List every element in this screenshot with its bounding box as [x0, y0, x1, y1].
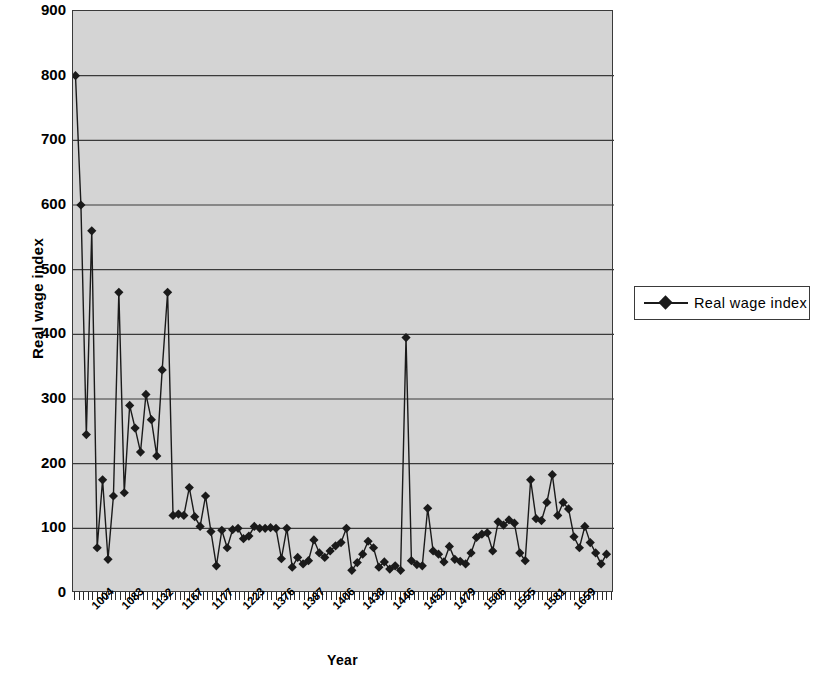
series-line-real-wage-index [76, 76, 607, 571]
x-axis-minor-tick [79, 592, 80, 600]
y-axis-tick-label: 900 [6, 2, 66, 17]
data-point-marker [73, 71, 80, 80]
x-axis-minor-tick [83, 592, 84, 600]
x-axis-minor-tick [570, 592, 571, 600]
data-point-marker [185, 483, 194, 492]
x-axis-minor-tick [510, 592, 511, 600]
data-point-marker [82, 430, 91, 439]
x-axis-title: Year [72, 652, 613, 668]
data-point-marker [212, 561, 221, 570]
data-point-marker [201, 491, 210, 500]
x-axis-minor-tick [418, 592, 419, 600]
data-point-marker [163, 288, 172, 297]
data-point-marker [353, 558, 362, 567]
y-axis-tick-label: 200 [6, 455, 66, 470]
data-point-marker [445, 542, 454, 551]
x-axis-minor-tick [542, 592, 543, 600]
data-point-marker [342, 524, 351, 533]
y-axis-tick-label: 800 [6, 67, 66, 82]
data-point-marker [586, 538, 595, 547]
series-canvas [73, 11, 614, 593]
x-axis-minor-tick [207, 592, 208, 600]
x-axis-minor-tick [391, 592, 392, 600]
y-axis-tick-label: 600 [6, 196, 66, 211]
x-axis-minor-tick [120, 592, 121, 600]
data-point-marker [76, 200, 85, 209]
data-point-marker [358, 550, 367, 559]
data-point-marker [526, 475, 535, 484]
x-axis-minor-tick [611, 592, 612, 600]
legend-marker-icon [644, 296, 688, 310]
data-point-marker [131, 424, 140, 433]
data-point-marker [309, 535, 318, 544]
y-axis-title: Real wage index [29, 199, 46, 399]
data-point-marker [147, 415, 156, 424]
x-axis-minor-tick [88, 592, 89, 600]
x-axis-minor-tick [423, 592, 424, 600]
data-point-marker [93, 543, 102, 552]
legend: Real wage index [634, 286, 810, 320]
data-point-marker [423, 504, 432, 513]
legend-label: Real wage index [694, 295, 807, 311]
x-axis-minor-tick [331, 592, 332, 600]
data-point-marker [223, 543, 232, 552]
data-point-marker [575, 543, 584, 552]
y-axis-tick-label: 700 [6, 131, 66, 146]
x-axis-minor-tick [483, 592, 484, 600]
data-point-marker [591, 548, 600, 557]
data-point-marker [190, 512, 199, 521]
y-axis-tick-label: 400 [6, 325, 66, 340]
data-point-marker [347, 566, 356, 575]
data-point-marker [217, 526, 226, 535]
data-point-marker [196, 522, 205, 531]
y-axis-tick-label: 0 [6, 584, 66, 599]
data-point-marker [109, 491, 118, 500]
data-point-marker [488, 546, 497, 555]
x-axis-minor-tick [602, 592, 603, 600]
data-point-marker [548, 470, 557, 479]
data-point-marker [103, 555, 112, 564]
y-axis-tick-label: 100 [6, 519, 66, 534]
x-axis-minor-tick [147, 592, 148, 600]
data-point-marker [282, 524, 291, 533]
x-axis-minor-tick [271, 592, 272, 600]
x-axis-minor-tick [359, 592, 360, 600]
data-point-marker [114, 288, 123, 297]
series-markers-real-wage-index [73, 71, 611, 575]
data-point-marker [439, 557, 448, 566]
chart-figure: Real wage index 900800700600500400300200… [0, 0, 814, 678]
y-axis-tick-label: 300 [6, 390, 66, 405]
data-point-marker [98, 475, 107, 484]
data-point-marker [596, 559, 605, 568]
data-point-marker [271, 524, 280, 533]
plot-area [72, 10, 613, 592]
x-axis-minor-tick [74, 592, 75, 600]
x-axis-minor-tick [180, 592, 181, 600]
gridlines [73, 76, 614, 529]
x-axis-minor-tick [606, 592, 607, 600]
data-point-marker [120, 488, 129, 497]
data-point-marker [288, 563, 297, 572]
data-point-marker [569, 532, 578, 541]
x-axis-minor-tick [239, 592, 240, 600]
data-point-marker [87, 226, 96, 235]
data-point-marker [602, 550, 611, 559]
data-point-marker [521, 556, 530, 565]
data-point-marker [553, 511, 562, 520]
x-axis-minor-tick [299, 592, 300, 600]
data-point-marker [158, 365, 167, 374]
data-point-marker [141, 390, 150, 399]
data-point-marker [277, 554, 286, 563]
data-point-marker [580, 522, 589, 531]
x-axis-minor-tick [450, 592, 451, 600]
data-point-marker [466, 548, 475, 557]
data-point-marker [125, 401, 134, 410]
data-point-marker [152, 451, 161, 460]
data-point-marker [542, 498, 551, 507]
data-point-marker [515, 548, 524, 557]
y-axis-tick-label: 500 [6, 261, 66, 276]
data-point-marker [136, 447, 145, 456]
